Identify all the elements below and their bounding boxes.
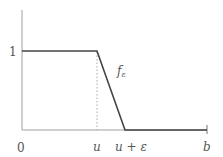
function-label: fε: [116, 64, 126, 79]
x-tick-b-label: b: [203, 140, 211, 154]
x-tick-u-label: u: [93, 140, 101, 154]
x-tick-0-label: 0: [17, 141, 25, 155]
function-diagram: 1 0 u u + ε b fε: [0, 0, 223, 157]
x-tick-u-eps-label: u + ε: [115, 140, 147, 154]
y-tick-1-label: 1: [9, 45, 17, 59]
function-curve: [22, 51, 207, 130]
